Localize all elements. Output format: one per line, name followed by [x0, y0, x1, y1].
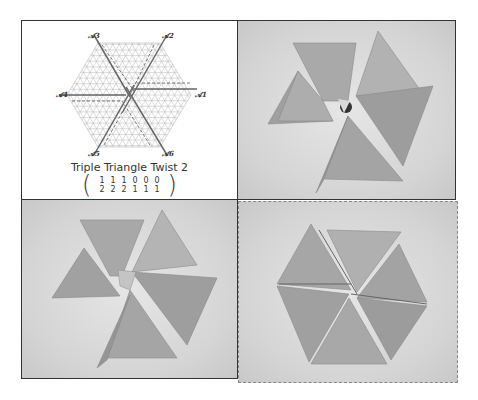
axis-label-a6: 𝒜6: [162, 149, 174, 158]
folded-model-photo-1: [237, 20, 456, 200]
formula-matrix: 111000 222111: [97, 176, 163, 194]
axis-label-a2: 𝒜2: [162, 31, 174, 40]
diagram-title: Triple Triangle Twist 2: [22, 161, 237, 174]
formula-numerators: 111000: [97, 176, 163, 185]
crease-pattern-panel: 𝒜3 𝒜2 𝒜4 𝒜1 𝒜5 𝒜6 Triple Triangle Twist …: [21, 20, 238, 200]
folded-model-photo-3: [238, 201, 458, 383]
left-paren: (: [82, 171, 91, 199]
diagram-formula: ( 111000 222111 ): [22, 174, 237, 196]
origami-flat-hexagon-image: [239, 202, 458, 383]
axis-label-a5: 𝒜5: [88, 149, 100, 158]
right-paren: ): [168, 171, 177, 199]
axis-label-a4: 𝒜4: [56, 90, 68, 99]
formula-denominators: 222111: [97, 185, 163, 194]
origami-twist-image: [22, 200, 238, 379]
origami-twist-image: [238, 21, 456, 200]
axis-label-a1: 𝒜1: [195, 90, 207, 99]
axis-label-a3: 𝒜3: [88, 31, 100, 40]
folded-model-photo-2: [21, 199, 238, 379]
